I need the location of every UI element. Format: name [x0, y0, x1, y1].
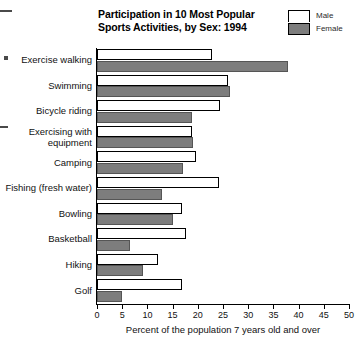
category-label: Camping [54, 157, 92, 168]
legend-label-male: Male [316, 11, 333, 20]
x-axis-tick-label: 15 [161, 310, 185, 320]
plot-area [97, 48, 349, 304]
x-axis-tick [248, 304, 249, 309]
category-label: Exercise walking [21, 54, 92, 65]
bar-female [97, 137, 193, 148]
x-axis-tick-label: 50 [337, 310, 356, 320]
bar-group [97, 126, 349, 152]
x-axis-tick [273, 304, 274, 309]
category-label: Basketball [48, 233, 92, 244]
x-axis-tick-label: 45 [312, 310, 336, 320]
chart-legend: Male Female [288, 9, 354, 35]
bar-group [97, 49, 349, 75]
bar-male [97, 254, 158, 265]
bar-female [97, 189, 162, 200]
bar-male [97, 126, 192, 137]
bar-female [97, 86, 230, 97]
x-axis-tick [223, 304, 224, 309]
bar-female [97, 61, 288, 72]
x-axis-tick [173, 304, 174, 309]
x-axis-tick-label: 20 [186, 310, 210, 320]
bar-male [97, 100, 220, 111]
x-axis-tick-label: 40 [287, 310, 311, 320]
category-label: Fishing (fresh water) [5, 182, 92, 193]
bar-male [97, 151, 196, 162]
x-axis-tick-label: 5 [110, 310, 134, 320]
category-label: Golf [75, 285, 92, 296]
gray-swatch-icon [288, 23, 310, 35]
chart-title-line-2: Sports Activities, by Sex: 1994 [98, 21, 268, 34]
bar-group [97, 228, 349, 254]
bar-male [97, 203, 182, 214]
x-axis-tick [122, 304, 123, 309]
bar-male [97, 75, 228, 86]
bar-group [97, 279, 349, 305]
x-axis-tick-label: 35 [261, 310, 285, 320]
bar-female [97, 163, 183, 174]
category-label: Bicycle riding [36, 105, 92, 116]
edge-artifact-mark [0, 126, 8, 128]
x-axis-title: Percent of the population 7 years old an… [97, 324, 349, 335]
x-axis-tick-label: 30 [236, 310, 260, 320]
legend-item-female: Female [288, 22, 354, 35]
bar-female [97, 240, 130, 251]
x-axis-tick-label: 0 [85, 310, 109, 320]
sports-participation-chart: Participation in 10 Most Popular Sports … [0, 0, 356, 344]
legend-label-female: Female [316, 24, 343, 33]
bar-male [97, 228, 186, 239]
x-axis-tick [299, 304, 300, 309]
bar-female [97, 112, 192, 123]
category-label: Swimming [48, 80, 92, 91]
x-axis-tick [349, 304, 350, 309]
category-label: Hiking [66, 259, 92, 270]
category-label: Bowling [59, 208, 92, 219]
bar-group [97, 254, 349, 280]
x-axis-tick [324, 304, 325, 309]
bar-female [97, 291, 122, 302]
bar-male [97, 279, 182, 290]
edge-artifact-mark [4, 56, 8, 60]
x-axis-tick-label: 10 [135, 310, 159, 320]
x-axis-tick-label: 25 [211, 310, 235, 320]
x-axis-tick [147, 304, 148, 309]
bar-male [97, 177, 219, 188]
bar-group [97, 75, 349, 101]
white-swatch-icon [288, 10, 310, 22]
chart-title-line-1: Participation in 10 Most Popular [98, 8, 268, 21]
bar-female [97, 265, 143, 276]
bar-female [97, 214, 173, 225]
x-axis-tick [198, 304, 199, 309]
legend-item-male: Male [288, 9, 354, 22]
bar-group [97, 151, 349, 177]
edge-artifact-mark [0, 10, 12, 12]
chart-title: Participation in 10 Most Popular Sports … [98, 8, 268, 34]
bar-group [97, 177, 349, 203]
category-label: Exercising with equipment [29, 126, 92, 148]
bar-male [97, 49, 212, 60]
bar-group [97, 203, 349, 229]
x-axis-tick [97, 304, 98, 309]
bar-group [97, 100, 349, 126]
